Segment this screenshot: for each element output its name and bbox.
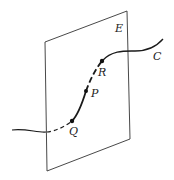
point-r [100, 59, 104, 63]
curve-segment-qp [72, 91, 86, 121]
label-p: P [90, 87, 99, 100]
label-q: Q [69, 125, 78, 138]
curve-plane-diagram: E C Q P R [0, 0, 174, 180]
label-e: E [114, 22, 123, 35]
point-q [70, 119, 74, 123]
point-p [84, 89, 88, 93]
curve-left-tail [12, 130, 46, 133]
label-r: R [97, 66, 106, 79]
label-c: C [153, 50, 162, 63]
